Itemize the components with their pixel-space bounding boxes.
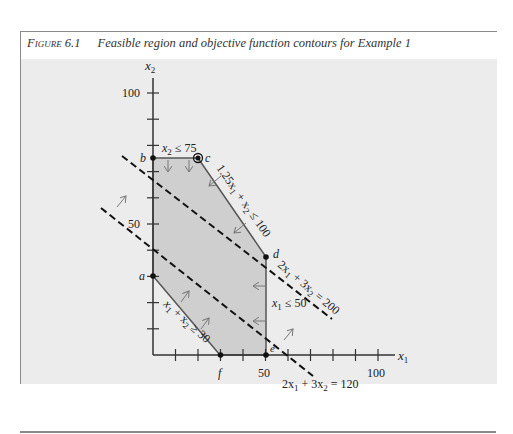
vertex-label-a: a bbox=[139, 269, 145, 283]
y-tick-label-100: 100 bbox=[122, 86, 140, 100]
lp-chart: x1 x2 50 100 50 100 a b c d e f x2 ≤ 75 … bbox=[0, 0, 513, 434]
vertex-label-d: d bbox=[273, 247, 280, 261]
objective-label-120: 2x1 + 3x2 = 120 bbox=[282, 377, 359, 393]
x-tick-label-100: 100 bbox=[367, 366, 385, 380]
y-tick-label-50: 50 bbox=[128, 217, 140, 231]
x-tick-label-50: 50 bbox=[258, 366, 270, 380]
vertex-label-b: b bbox=[140, 151, 146, 165]
vertex-label-f: f bbox=[218, 366, 223, 380]
constraint-label-x1-50: x1 ≤ 50 bbox=[271, 296, 306, 312]
vertex-label-c: c bbox=[205, 151, 211, 165]
y-axis-label: x2 bbox=[144, 58, 155, 75]
constraint-label-x2-75: x2 ≤ 75 bbox=[161, 141, 196, 157]
vertex-label-e: e bbox=[270, 342, 275, 354]
x-axis-label: x1 bbox=[397, 348, 408, 365]
